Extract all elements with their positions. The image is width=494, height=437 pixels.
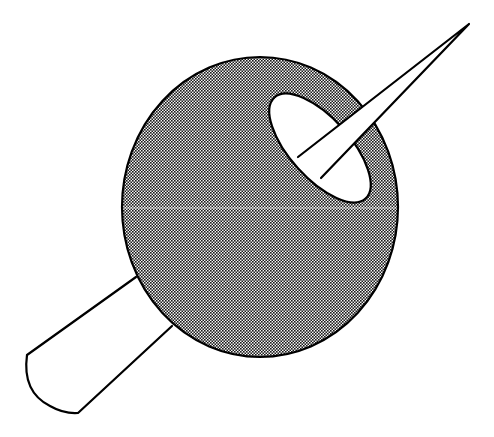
- shaded-sphere: [122, 57, 398, 357]
- sphere-rod-drawing: [0, 0, 494, 437]
